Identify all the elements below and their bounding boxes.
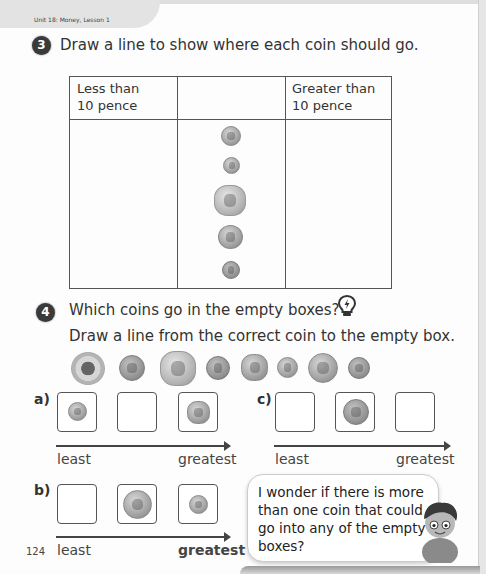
coin-5p[interactable]: [221, 126, 241, 146]
part-c-greatest: greatest: [396, 451, 454, 467]
worksheet-page: Unit 18: Money, Lesson 1 3 Draw a line t…: [0, 0, 486, 574]
coin-5p: [68, 402, 87, 421]
header-less-line2: 10 pence: [77, 97, 139, 114]
coin-1p[interactable]: [222, 261, 240, 279]
part-a-label: a): [34, 391, 50, 407]
header-greater-line1: Greater than: [292, 80, 375, 97]
coin-5p[interactable]: [277, 357, 298, 378]
part-a-box-3[interactable]: [178, 392, 218, 432]
part-c-least: least: [275, 451, 309, 467]
coin-50p[interactable]: [214, 185, 246, 216]
coin-5p-small[interactable]: [223, 157, 240, 174]
question-4-question: Which coins go in the empty boxes?: [69, 301, 340, 319]
header-divider: [70, 119, 391, 120]
part-a-box-2-empty[interactable]: [117, 392, 157, 432]
part-b-least: least: [57, 542, 91, 558]
unit-label: Unit 18: Money, Lesson 1: [34, 16, 110, 23]
header-greater-than: Greater than 10 pence: [292, 80, 375, 114]
coin-10p[interactable]: [308, 353, 338, 383]
header-greater-line2: 10 pence: [292, 97, 375, 114]
part-c-box-3-empty[interactable]: [395, 392, 435, 432]
part-b-box-1-empty[interactable]: [57, 484, 97, 524]
column-divider: [177, 77, 178, 288]
coin-20p: [187, 401, 210, 424]
question-3-instruction: Draw a line to show where each coin shou…: [60, 36, 418, 54]
lightbulb-icon: [338, 295, 356, 317]
header-less-line1: Less than: [77, 80, 139, 97]
bottom-band: [240, 566, 480, 574]
coin-50p[interactable]: [160, 351, 196, 386]
part-c-box-2[interactable]: [335, 392, 375, 432]
coin-5p: [189, 495, 208, 514]
part-b-box-3[interactable]: [178, 484, 218, 524]
part-c-box-1-empty[interactable]: [275, 392, 315, 432]
part-a-greatest: greatest: [178, 451, 236, 467]
question-4-number: 4: [36, 303, 55, 322]
header-less-than: Less than 10 pence: [77, 80, 139, 114]
header-tab: [0, 0, 160, 28]
coin-20p[interactable]: [241, 354, 268, 381]
question-4-instruction: Draw a line from the correct coin to the…: [69, 327, 455, 345]
speech-bubble-text: I wonder if there is more than one coin …: [258, 483, 430, 555]
character-avatar: [418, 497, 462, 563]
order-arrow-a: [56, 445, 229, 447]
part-a-least: least: [57, 451, 91, 467]
coin-1p-small[interactable]: [348, 357, 370, 379]
part-b-label: b): [34, 482, 50, 498]
page-edge: [478, 0, 486, 574]
page-number: 124: [26, 546, 45, 557]
order-arrow-c: [274, 445, 449, 447]
coin-2p: [343, 399, 369, 425]
column-divider: [285, 77, 286, 288]
part-a-box-1[interactable]: [57, 392, 97, 432]
coin-2-pound[interactable]: [71, 352, 105, 385]
part-b-greatest: greatest: [178, 542, 245, 558]
speech-bubble: I wonder if there is more than one coin …: [247, 474, 439, 562]
coin-10p: [123, 490, 152, 519]
order-arrow-b: [56, 536, 229, 538]
coin-2p[interactable]: [119, 355, 145, 381]
sorting-table: Less than 10 pence Greater than 10 pence: [69, 76, 392, 289]
part-c-label: c): [257, 391, 272, 407]
part-b-box-2[interactable]: [117, 484, 157, 524]
coin-1p[interactable]: [206, 356, 230, 380]
question-3-number: 3: [32, 36, 51, 55]
coin-10p[interactable]: [218, 225, 243, 249]
